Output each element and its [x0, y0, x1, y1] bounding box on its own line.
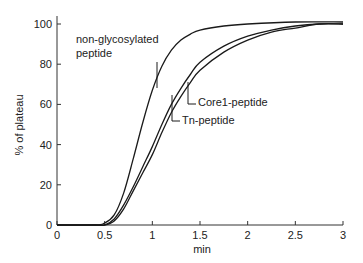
x-tick-label: 1.5: [192, 229, 207, 241]
y-tick-label: 60: [40, 98, 52, 110]
x-tick-label: 3: [340, 229, 346, 241]
annotation-nonglyc-line1: non-glycosylated: [76, 33, 159, 45]
y-axis-label: % of plateau: [13, 94, 25, 155]
annotation-leader-lines: [157, 62, 196, 121]
x-tick-label: 0: [54, 229, 60, 241]
y-tick-label: 80: [40, 58, 52, 70]
x-tick-label: 1: [149, 229, 155, 241]
x-tick-label: 0.5: [97, 229, 112, 241]
y-tick-label: 40: [40, 139, 52, 151]
line-chart: 00.511.522.53020406080100 non-glycosylat…: [0, 0, 363, 263]
annotation-tn: Tn-peptide: [182, 114, 235, 126]
annotation-nonglyc-line2: peptide: [76, 47, 112, 59]
y-tick-label: 100: [34, 18, 52, 30]
y-tick-label: 20: [40, 179, 52, 191]
annotation-core1: Core1-peptide: [198, 96, 268, 108]
x-tick-label: 2.5: [288, 229, 303, 241]
x-tick-label: 2: [245, 229, 251, 241]
leader-core1: [188, 82, 196, 104]
y-tick-label: 0: [46, 219, 52, 231]
x-axis-label: min: [193, 243, 211, 255]
